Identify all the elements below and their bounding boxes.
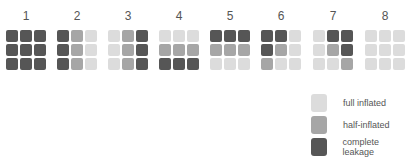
grid-block-6: 6: [261, 8, 301, 70]
grid-label: 3: [108, 8, 148, 24]
grid-cell: [136, 44, 148, 56]
grid-cell: [313, 44, 325, 56]
legend-swatch: [311, 116, 327, 134]
grid-cell: [136, 30, 148, 42]
grid-cell: [393, 58, 405, 70]
grid-cell: [85, 30, 97, 42]
cell-grid: [57, 30, 97, 70]
grid-cell: [275, 44, 287, 56]
grid-cell: [187, 44, 199, 56]
grid-label: 1: [6, 8, 46, 24]
grid-cell: [261, 58, 273, 70]
legend: full inflatedhalf-inflatedcomplete leaka…: [311, 94, 411, 160]
grid-label: 7: [313, 8, 353, 24]
grid-cell: [289, 44, 301, 56]
grid-block-3: 3: [108, 8, 148, 70]
cell-grid: [159, 30, 199, 70]
cell-grid: [261, 30, 301, 70]
legend-swatch: [311, 94, 327, 112]
legend-item: complete leakage: [311, 138, 411, 156]
grid-cell: [327, 44, 339, 56]
grid-cell: [20, 30, 32, 42]
cell-grid: [108, 30, 148, 70]
grid-cell: [341, 44, 353, 56]
grid-cell: [275, 58, 287, 70]
grid-cell: [261, 44, 273, 56]
grid-label: 8: [365, 8, 405, 24]
grid-cell: [289, 30, 301, 42]
grid-cell: [136, 58, 148, 70]
grid-cell: [108, 58, 120, 70]
grid-cell: [327, 30, 339, 42]
grid-cell: [261, 30, 273, 42]
grid-cell: [122, 44, 134, 56]
grid-cell: [365, 44, 377, 56]
grid-cell: [71, 30, 83, 42]
grid-cell: [210, 44, 222, 56]
grid-cell: [159, 30, 171, 42]
grid-cell: [224, 58, 236, 70]
grid-cell: [85, 58, 97, 70]
grid-cell: [341, 58, 353, 70]
grid-cell: [187, 30, 199, 42]
grid-cell: [173, 58, 185, 70]
legend-item: half-inflated: [311, 116, 411, 134]
grid-cell: [159, 58, 171, 70]
legend-item: full inflated: [311, 94, 411, 112]
grid-cell: [159, 44, 171, 56]
grid-cell: [210, 58, 222, 70]
grid-cell: [327, 58, 339, 70]
grid-cell: [289, 58, 301, 70]
grid-cell: [122, 58, 134, 70]
grid-cell: [224, 30, 236, 42]
grid-cell: [108, 44, 120, 56]
legend-label: full inflated: [343, 98, 386, 108]
grid-cell: [224, 44, 236, 56]
grid-cell: [57, 44, 69, 56]
grid-cell: [379, 44, 391, 56]
grid-cell: [6, 30, 18, 42]
grid-cell: [187, 58, 199, 70]
grid-label: 5: [210, 8, 250, 24]
grid-cell: [238, 30, 250, 42]
grid-cell: [108, 30, 120, 42]
grid-cell: [365, 58, 377, 70]
grid-label: 6: [261, 8, 301, 24]
grid-block-7: 7: [313, 8, 353, 70]
grid-cell: [20, 58, 32, 70]
grid-cell: [238, 44, 250, 56]
grid-cell: [6, 58, 18, 70]
grid-cell: [6, 44, 18, 56]
grid-block-5: 5: [210, 8, 250, 70]
grid-cell: [275, 30, 287, 42]
grid-cell: [122, 30, 134, 42]
grid-cell: [71, 58, 83, 70]
cell-grid: [6, 30, 46, 70]
grid-block-2: 2: [57, 8, 97, 70]
grid-cell: [393, 30, 405, 42]
grid-cell: [210, 30, 222, 42]
grid-cell: [393, 44, 405, 56]
cell-grid: [313, 30, 353, 70]
grid-cell: [313, 58, 325, 70]
grid-label: 2: [57, 8, 97, 24]
grid-block-4: 4: [159, 8, 199, 70]
cell-grid: [210, 30, 250, 70]
grid-cell: [173, 30, 185, 42]
legend-swatch: [311, 138, 327, 156]
grid-cell: [365, 30, 377, 42]
grid-cell: [57, 58, 69, 70]
grid-block-8: 8: [365, 8, 405, 70]
grid-cell: [34, 58, 46, 70]
grid-cell: [173, 44, 185, 56]
grid-cell: [34, 30, 46, 42]
cell-grid: [365, 30, 405, 70]
grid-cell: [85, 44, 97, 56]
grid-cell: [341, 30, 353, 42]
grid-label: 4: [159, 8, 199, 24]
legend-label: half-inflated: [343, 120, 390, 130]
grid-cell: [379, 58, 391, 70]
grid-cell: [20, 44, 32, 56]
grid-cell: [71, 44, 83, 56]
grid-cell: [57, 30, 69, 42]
